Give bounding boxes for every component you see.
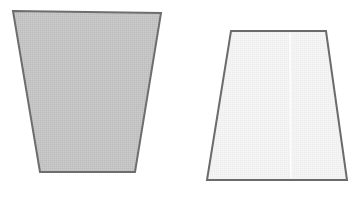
right-trapezoid-group [207, 31, 347, 180]
right-trapezoid [207, 31, 347, 180]
right-trapezoid-vertical-seam [290, 33, 291, 178]
left-trapezoid [13, 11, 161, 172]
left-trapezoid-group [13, 11, 161, 172]
shapes-svg [0, 0, 352, 198]
figure-canvas [0, 0, 352, 198]
